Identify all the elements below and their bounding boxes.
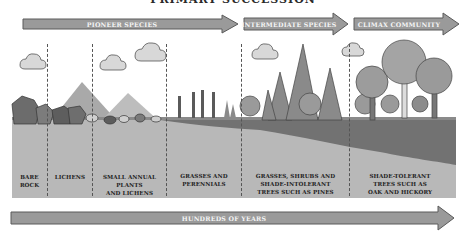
cloud-icon: [252, 44, 278, 59]
cloud-icon: [100, 55, 126, 70]
stage-label-lichens: LICHENS: [48, 173, 92, 181]
cloud-icon: [135, 43, 166, 61]
stage-label-shade-tolerant: SHADE-TOLERANT TREES SUCH AS OAK AND HIC…: [350, 172, 450, 196]
succession-illustration: [0, 0, 466, 236]
timeline-arrow: HUNDREDS OF YEARS: [10, 205, 456, 231]
oak-tree-icon: [356, 40, 452, 120]
timeline-label: HUNDREDS OF YEARS: [10, 205, 438, 231]
stage-label-grasses-perennials: GRASSES AND PERENNIALS: [167, 172, 241, 188]
stage-label-small-annual-plants: SMALL ANNUAL PLANTS AND LICHENS: [93, 173, 166, 197]
grass-icon: [178, 90, 236, 118]
stage-label-shade-intolerant: GRASSES, SHRUBS AND SHADE-INTOLERANT TRE…: [242, 172, 349, 196]
cloud-icon: [20, 54, 46, 69]
stage-label-bare-rock: BARE ROCK: [12, 173, 47, 189]
cloud-icon: [342, 43, 364, 56]
